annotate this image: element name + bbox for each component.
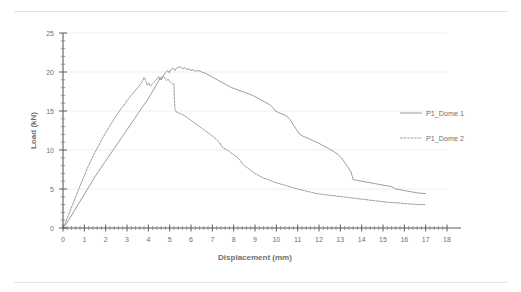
x-tick-label: 2 — [104, 236, 108, 243]
x-tick-label: 18 — [443, 236, 451, 243]
series-line-2 — [63, 76, 425, 228]
legend-label-1: P1_Dome 1 — [426, 109, 464, 118]
x-tick-label: 11 — [294, 236, 301, 243]
x-tick-label: 10 — [272, 236, 280, 243]
y-tick-label: 10 — [46, 147, 54, 154]
x-tick-label: 7 — [210, 236, 214, 243]
x-tick-label: 0 — [61, 236, 65, 243]
x-axis-title: Displacement (mm) — [218, 253, 292, 262]
x-tick-label: 1 — [82, 236, 86, 243]
y-tick-label: 5 — [50, 186, 54, 193]
y-tick-label: 0 — [50, 225, 54, 232]
x-tick-label: 5 — [168, 236, 172, 243]
y-axis-title: Load (kN) — [29, 112, 38, 149]
legend-label-2: P1_Dome 2 — [426, 134, 464, 143]
x-tick-label: 4 — [146, 236, 150, 243]
x-tick-label: 17 — [422, 236, 430, 243]
x-tick-label: 14 — [358, 236, 366, 243]
x-tick-label: 6 — [189, 236, 193, 243]
y-tick-label: 15 — [46, 108, 54, 115]
y-tick-label: 25 — [46, 30, 54, 37]
chart-figure: 05101520250123456789101112131415161718Di… — [0, 0, 521, 292]
x-tick-label: 16 — [400, 236, 408, 243]
series-line-1 — [63, 67, 426, 228]
x-tick-label: 15 — [379, 236, 387, 243]
y-tick-label: 20 — [46, 69, 54, 76]
x-tick-label: 12 — [315, 236, 323, 243]
x-tick-label: 9 — [253, 236, 257, 243]
x-tick-label: 8 — [232, 236, 236, 243]
load-displacement-chart: 05101520250123456789101112131415161718Di… — [0, 0, 521, 292]
x-tick-label: 3 — [125, 236, 129, 243]
x-tick-label: 13 — [336, 236, 344, 243]
